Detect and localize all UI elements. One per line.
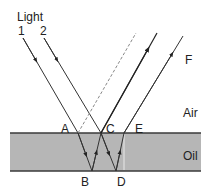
oil-label: Oil	[183, 150, 198, 162]
F-label: F	[185, 54, 192, 66]
air-label: Air	[183, 107, 198, 119]
point-E-label: E	[135, 123, 143, 135]
ray-2-label: 2	[40, 25, 47, 37]
dashed-reflected-ray-A	[78, 33, 136, 133]
point-A-label: A	[61, 123, 69, 135]
reflected-ray-C	[101, 33, 157, 133]
reflected-ray-E	[124, 36, 183, 133]
oil-layer	[10, 133, 201, 171]
light-label: Light	[17, 11, 43, 23]
interference-diagram	[0, 0, 211, 195]
point-B-label: B	[81, 176, 89, 188]
ray-1-label: 1	[18, 25, 25, 37]
point-D-label: D	[117, 176, 126, 188]
point-C-label: C	[106, 123, 115, 135]
